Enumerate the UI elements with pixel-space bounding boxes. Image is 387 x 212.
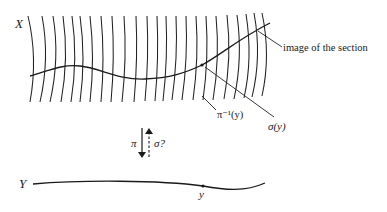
base-space-curve — [33, 181, 265, 189]
fiber-label: π⁻¹(y) — [217, 109, 244, 121]
section-leader-line — [258, 31, 282, 47]
total-space-label: X — [14, 16, 24, 31]
projection-label: π — [131, 137, 137, 149]
base-space-label: Y — [19, 176, 28, 191]
fiber-leader-line — [202, 96, 216, 110]
section-map-label: σ? — [154, 137, 165, 149]
point-label: y — [198, 188, 204, 200]
fiber-bundle-diagram: X image of the section σ(y) π⁻¹(y — [0, 0, 387, 212]
sigma-y-point — [200, 63, 203, 66]
sigma-y-label: σ(y) — [268, 120, 286, 133]
fibers — [28, 13, 267, 102]
section-label: image of the section — [283, 42, 369, 53]
